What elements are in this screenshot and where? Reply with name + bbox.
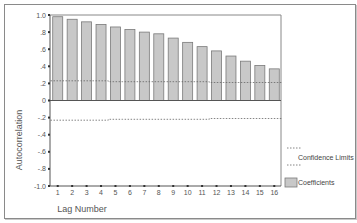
- x-tick-mark: [244, 185, 246, 187]
- coefficient-bar: [255, 65, 265, 100]
- x-tick-label: 14: [242, 189, 250, 196]
- x-tick-mark: [172, 185, 174, 187]
- x-tick-label: 6: [128, 189, 132, 196]
- y-tick-label: .2: [40, 80, 46, 87]
- coefficient-bar: [125, 30, 135, 101]
- x-tick-label: 9: [171, 189, 175, 196]
- y-tick-mark: [48, 65, 50, 67]
- x-tick-mark: [187, 185, 189, 187]
- coefficient-bar: [53, 17, 63, 101]
- x-tick-mark: [201, 185, 203, 187]
- coefficient-bar: [139, 32, 149, 100]
- x-tick-label: 16: [270, 189, 278, 196]
- y-tick-mark: [48, 48, 50, 50]
- legend: Confidence Limits Coefficients: [285, 148, 354, 187]
- y-tick-mark: [48, 117, 50, 119]
- y-tick-label: -1.0: [34, 183, 46, 190]
- x-tick-label: 3: [85, 189, 89, 196]
- y-tick-mark: [48, 185, 50, 187]
- y-axis-title: Autocorrelation: [14, 110, 24, 171]
- coefficient-bar: [183, 42, 193, 100]
- coefficient-bar: [197, 47, 207, 101]
- x-tick-label: 5: [114, 189, 118, 196]
- x-tick-mark: [230, 185, 232, 187]
- y-tick-label: .8: [40, 29, 46, 36]
- x-tick-label: 11: [198, 189, 205, 196]
- x-tick-mark: [273, 185, 275, 187]
- y-tick-mark: [48, 31, 50, 33]
- x-tick-label: 2: [70, 189, 74, 196]
- legend-confidence-label: Confidence Limits: [298, 154, 354, 161]
- coefficient-bar: [96, 24, 106, 100]
- coefficient-bar: [212, 51, 222, 101]
- coefficient-bar: [168, 38, 178, 100]
- y-tick-label: -.8: [38, 165, 46, 172]
- coefficient-bar: [67, 19, 77, 100]
- x-tick-label: 13: [227, 189, 235, 196]
- x-tick-label: 12: [213, 189, 221, 196]
- y-tick-mark: [48, 100, 50, 102]
- x-tick-mark: [71, 185, 73, 187]
- x-tick-mark: [100, 185, 102, 187]
- x-tick-mark: [259, 185, 261, 187]
- x-tick-mark: [114, 185, 116, 187]
- coefficient-bar: [240, 61, 250, 100]
- x-tick-mark: [143, 185, 145, 187]
- x-tick-mark: [57, 185, 59, 187]
- y-tick-label: 0: [42, 97, 46, 104]
- y-tick-label: .4: [40, 63, 46, 70]
- coefficient-bar: [110, 27, 120, 101]
- acf-chart: 1.0.8.6.4.20-.2-.4-.6-.8-1.0123456789101…: [0, 0, 357, 223]
- coefficient-bar: [154, 34, 164, 101]
- y-tick-label: 1.0: [36, 12, 46, 19]
- x-tick-mark: [216, 185, 218, 187]
- y-tick-mark: [48, 168, 50, 170]
- x-tick-label: 1: [56, 189, 60, 196]
- x-tick-label: 7: [142, 189, 146, 196]
- coefficient-bar: [82, 22, 92, 101]
- coefficient-bar: [226, 56, 236, 100]
- y-tick-label: -.4: [38, 131, 46, 138]
- y-tick-label: -.6: [38, 148, 46, 155]
- y-tick-mark: [48, 134, 50, 136]
- x-tick-label: 10: [184, 189, 192, 196]
- x-tick-mark: [129, 185, 131, 187]
- x-tick-label: 15: [256, 189, 264, 196]
- x-tick-label: 4: [99, 189, 103, 196]
- y-tick-label: .6: [40, 46, 46, 53]
- plot-area: 1.0.8.6.4.20-.2-.4-.6-.8-1.0123456789101…: [34, 12, 282, 197]
- y-tick-label: -.2: [38, 114, 46, 121]
- x-tick-label: 8: [157, 189, 161, 196]
- y-tick-mark: [48, 151, 50, 153]
- x-axis-title: Lag Number: [57, 204, 107, 214]
- x-tick-mark: [86, 185, 88, 187]
- confidence-limit-lower: [51, 119, 282, 121]
- y-tick-mark: [48, 14, 50, 16]
- legend-coefficients-swatch: [285, 178, 297, 187]
- coefficient-bar: [269, 69, 279, 101]
- legend-coefficients-label: Coefficients: [298, 179, 335, 186]
- x-tick-mark: [158, 185, 160, 187]
- y-tick-mark: [48, 82, 50, 84]
